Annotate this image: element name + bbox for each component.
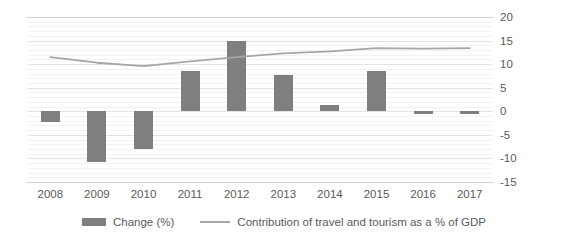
x-tick-label-2017: 2017 bbox=[447, 188, 493, 200]
y-tick-label: -5 bbox=[500, 129, 540, 141]
x-tick-label-2010: 2010 bbox=[121, 188, 167, 200]
y-tick-label: 5 bbox=[500, 82, 540, 94]
y-tick-label: 10 bbox=[500, 58, 540, 70]
line-path-contribution bbox=[50, 48, 469, 66]
y-tick-label: -10 bbox=[500, 152, 540, 164]
legend-item-contribution[interactable]: Contribution of travel and tourism as a … bbox=[200, 216, 486, 228]
x-tick-label-2015: 2015 bbox=[354, 188, 400, 200]
line-swatch-icon bbox=[200, 221, 230, 223]
x-tick-label-2014: 2014 bbox=[307, 188, 353, 200]
y-tick-label: -15 bbox=[500, 176, 540, 188]
y-tick-label: 0 bbox=[500, 105, 540, 117]
y-tick-label: 20 bbox=[500, 11, 540, 23]
line-series-layer bbox=[27, 17, 493, 182]
legend-item-change[interactable]: Change (%) bbox=[82, 216, 174, 228]
legend-label-contribution: Contribution of travel and tourism as a … bbox=[237, 216, 486, 228]
bar-swatch-icon bbox=[82, 218, 106, 226]
legend-label-change: Change (%) bbox=[113, 216, 174, 228]
x-tick-label-2013: 2013 bbox=[260, 188, 306, 200]
x-tick-label-2016: 2016 bbox=[400, 188, 446, 200]
chart-legend: Change (%) Contribution of travel and to… bbox=[0, 216, 568, 228]
x-tick-label-2012: 2012 bbox=[214, 188, 260, 200]
x-tick-label-2011: 2011 bbox=[167, 188, 213, 200]
y-tick-label: 15 bbox=[500, 35, 540, 47]
chart-container: 20151050-5-10-15 20082009201020112012201… bbox=[0, 0, 568, 245]
gridline-major bbox=[27, 182, 493, 183]
x-tick-label-2009: 2009 bbox=[74, 188, 120, 200]
plot-area bbox=[27, 17, 493, 182]
line-series-svg bbox=[27, 17, 493, 182]
x-tick-label-2008: 2008 bbox=[27, 188, 73, 200]
